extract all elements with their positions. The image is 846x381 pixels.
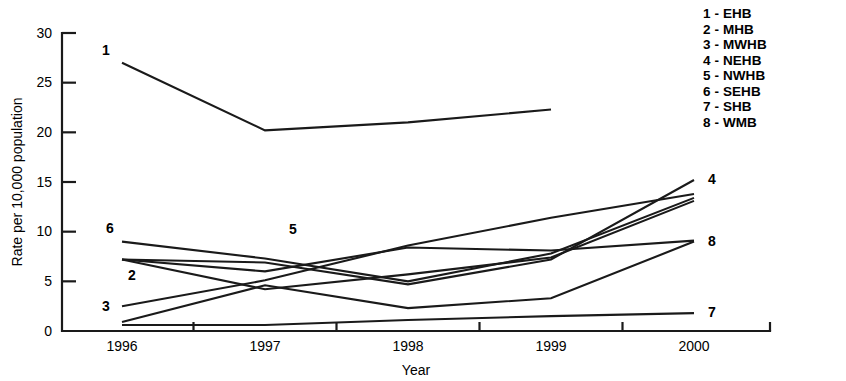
legend: 1 - EHB 2 - MHB 3 - MWHB 4 - NEHB 5 - NW… bbox=[703, 6, 843, 130]
legend-item: 6 - SEHB bbox=[703, 84, 843, 100]
series-label-6: 6 bbox=[106, 220, 114, 236]
axis-titles: Rate per 10,000 populationYear bbox=[9, 98, 430, 378]
x-tick-label: 1998 bbox=[392, 338, 423, 354]
x-tick-label: 1999 bbox=[535, 338, 566, 354]
series-line-sehb bbox=[122, 198, 694, 281]
legend-item: 7 - SHB bbox=[703, 99, 843, 115]
data-series-lines bbox=[122, 63, 694, 325]
x-tick-label: 2000 bbox=[678, 338, 709, 354]
series-line-mwhb bbox=[122, 194, 694, 306]
y-tick-label: 30 bbox=[36, 25, 52, 41]
y-tick-label: 10 bbox=[36, 223, 52, 239]
series-label-5: 5 bbox=[289, 221, 297, 237]
legend-item: 5 - NWHB bbox=[703, 68, 843, 84]
y-tick-label: 25 bbox=[36, 74, 52, 90]
legend-item: 3 - MWHB bbox=[703, 37, 843, 53]
series-line-shb bbox=[122, 313, 694, 325]
series-line-ehb bbox=[122, 63, 551, 131]
x-axis-ticks: 19961997199819992000 bbox=[106, 322, 709, 354]
chart-figure: 051015202530 19961997199819992000 123456… bbox=[0, 0, 846, 381]
y-tick-label: 15 bbox=[36, 174, 52, 190]
chart-axes bbox=[62, 33, 770, 331]
legend-item: 1 - EHB bbox=[703, 6, 843, 22]
series-number-labels: 12345678 bbox=[102, 42, 716, 320]
series-label-7: 7 bbox=[708, 304, 716, 320]
legend-item: 8 - WMB bbox=[703, 115, 843, 131]
x-axis-title: Year bbox=[402, 362, 431, 378]
y-tick-label: 20 bbox=[36, 124, 52, 140]
series-label-4: 4 bbox=[708, 171, 716, 187]
series-label-3: 3 bbox=[102, 298, 110, 314]
legend-item: 2 - MHB bbox=[703, 22, 843, 38]
series-label-2: 2 bbox=[128, 267, 136, 283]
legend-item: 4 - NEHB bbox=[703, 53, 843, 69]
series-label-1: 1 bbox=[102, 42, 110, 58]
y-axis-ticks: 051015202530 bbox=[36, 25, 76, 339]
axis-frame bbox=[62, 33, 770, 331]
y-axis-title: Rate per 10,000 population bbox=[9, 98, 25, 267]
y-tick-label: 0 bbox=[44, 323, 52, 339]
y-tick-label: 5 bbox=[44, 273, 52, 289]
series-label-8: 8 bbox=[708, 233, 716, 249]
x-tick-label: 1997 bbox=[249, 338, 280, 354]
x-tick-label: 1996 bbox=[106, 338, 137, 354]
